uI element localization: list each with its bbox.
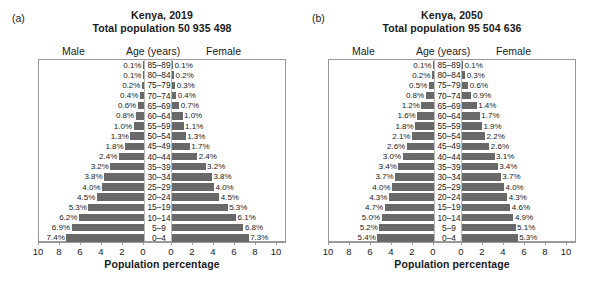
axis-tick bbox=[234, 242, 235, 245]
bar-value-label-female: 2.2% bbox=[487, 132, 505, 141]
bar-value-label-female: 4.9% bbox=[515, 213, 533, 222]
axis-line bbox=[328, 242, 576, 243]
bar-value-label-male: 1.6% bbox=[397, 111, 415, 120]
bar-value-label-female: 3.7% bbox=[502, 172, 520, 181]
age-group-label: 75–79 bbox=[435, 80, 463, 90]
axis-tick-label: 6 bbox=[521, 246, 526, 257]
bar-male bbox=[412, 132, 434, 140]
bar-value-label-female: 6.1% bbox=[238, 213, 256, 222]
axis-tick bbox=[503, 242, 504, 245]
axis-tick bbox=[171, 242, 172, 245]
bar-value-label-female: 1.9% bbox=[483, 122, 501, 131]
bar-male bbox=[72, 224, 144, 232]
male-bars-group: 0.1%0.2%0.5%0.8%1.2%1.6%1.8%2.1%2.6%3.0%… bbox=[329, 60, 434, 241]
bar-value-label-male: 3.0% bbox=[383, 152, 401, 161]
axis-tick bbox=[255, 242, 256, 245]
age-group-label: 10–14 bbox=[435, 213, 463, 223]
bar-value-label-male: 1.2% bbox=[402, 101, 420, 110]
axis-tick-label: 0 bbox=[458, 246, 463, 257]
bar-value-label-male: 6.2% bbox=[59, 213, 77, 222]
axis-tick bbox=[143, 242, 144, 245]
axis-tick-label: 4 bbox=[388, 246, 393, 257]
bar-value-label-female: 6.8% bbox=[245, 223, 263, 232]
axis-tick-label: 6 bbox=[231, 246, 236, 257]
bar-value-label-male: 3.4% bbox=[379, 162, 397, 171]
bar-female bbox=[172, 112, 183, 120]
bar-value-label-female: 0.6% bbox=[470, 81, 488, 90]
axis-tick-label: 0 bbox=[168, 246, 173, 257]
bar-value-label-male: 4.3% bbox=[369, 193, 387, 202]
bar-female bbox=[462, 234, 518, 242]
bar-value-label-male: 5.0% bbox=[362, 213, 380, 222]
axis-tick-label: 6 bbox=[367, 246, 372, 257]
bar-value-label-male: 3.8% bbox=[84, 172, 102, 181]
bar-value-label-female: 5.1% bbox=[517, 223, 535, 232]
bar-female bbox=[462, 132, 485, 140]
bar-value-label-female: 0.1% bbox=[175, 61, 193, 70]
bar-male bbox=[417, 112, 434, 120]
age-group-label: 40–44 bbox=[435, 152, 463, 162]
bar-female bbox=[172, 214, 236, 222]
age-group-label: 25–29 bbox=[145, 182, 173, 192]
age-group-label: 85–89 bbox=[145, 60, 173, 70]
bar-value-label-female: 1.1% bbox=[185, 122, 203, 131]
axis-tick-label: 2 bbox=[479, 246, 484, 257]
panel-a: (a) Kenya, 2019 Total population 50 935 … bbox=[0, 0, 300, 285]
bar-value-label-female: 4.3% bbox=[509, 193, 527, 202]
age-group-label: 80–84 bbox=[435, 70, 463, 80]
bar-value-label-female: 4.0% bbox=[506, 183, 524, 192]
male-bars-group: 0.1%0.1%0.2%0.4%0.6%0.8%1.0%1.3%1.8%2.4%… bbox=[39, 60, 144, 241]
bar-female bbox=[462, 143, 489, 151]
age-group-label: 75–79 bbox=[145, 80, 173, 90]
panel-b-subtitle: Total population 95 504 636 bbox=[328, 22, 576, 35]
bar-value-label-male: 0.4% bbox=[120, 91, 138, 100]
bar-value-label-male: 0.8% bbox=[406, 91, 424, 100]
female-bars-group: 0.1%0.2%0.3%0.4%0.7%1.0%1.1%1.3%1.7%2.4%… bbox=[172, 60, 277, 241]
bar-value-label-male: 1.8% bbox=[105, 142, 123, 151]
bar-value-label-female: 5.3% bbox=[229, 203, 247, 212]
axis-tick-label: 10 bbox=[561, 246, 572, 257]
bar-value-label-female: 0.3% bbox=[467, 71, 485, 80]
bar-male bbox=[79, 214, 144, 222]
bar-male bbox=[66, 234, 144, 242]
age-group-label: 30–34 bbox=[145, 172, 173, 182]
axis-tick-label: 4 bbox=[210, 246, 215, 257]
bar-value-label-male: 0.8% bbox=[116, 111, 134, 120]
bar-value-label-male: 0.6% bbox=[118, 101, 136, 110]
header-female: Female bbox=[496, 45, 531, 57]
axis-tick-label: 8 bbox=[56, 246, 61, 257]
bar-value-label-female: 4.0% bbox=[216, 183, 234, 192]
bar-female bbox=[462, 224, 516, 232]
panel-a-letter: (a) bbox=[12, 12, 25, 24]
bar-female bbox=[462, 102, 477, 110]
header-male: Male bbox=[62, 45, 85, 57]
bar-male bbox=[426, 92, 434, 100]
bar-female bbox=[172, 163, 206, 171]
axis-tick bbox=[192, 242, 193, 245]
bar-value-label-female: 3.8% bbox=[213, 172, 231, 181]
age-group-label: 5–9 bbox=[435, 223, 463, 233]
axis-tick bbox=[433, 242, 434, 245]
age-group-label: 50–54 bbox=[145, 131, 173, 141]
bar-value-label-female: 0.2% bbox=[176, 71, 194, 80]
axis-tick bbox=[370, 242, 371, 245]
axis-tick-label: 4 bbox=[98, 246, 103, 257]
bar-male bbox=[110, 163, 144, 171]
bar-value-label-female: 2.6% bbox=[491, 142, 509, 151]
axis-tick-label: 10 bbox=[33, 246, 44, 257]
female-bars-group: 0.1%0.3%0.6%0.9%1.4%1.7%1.9%2.2%2.6%3.1%… bbox=[462, 60, 567, 241]
bar-value-label-male: 5.2% bbox=[360, 223, 378, 232]
bar-value-label-male: 4.7% bbox=[365, 203, 383, 212]
bar-value-label-male: 2.1% bbox=[392, 132, 410, 141]
bar-value-label-female: 3.2% bbox=[207, 162, 225, 171]
axis-tick bbox=[59, 242, 60, 245]
bar-value-label-male: 4.0% bbox=[372, 183, 390, 192]
bar-male bbox=[136, 112, 144, 120]
bar-value-label-female: 0.3% bbox=[177, 81, 195, 90]
bar-female bbox=[172, 153, 197, 161]
axis-tick-label: 2 bbox=[409, 246, 414, 257]
age-group-label: 55–59 bbox=[435, 121, 463, 131]
age-group-label: 65–69 bbox=[145, 101, 173, 111]
bar-female bbox=[172, 193, 219, 201]
bar-male bbox=[379, 224, 434, 232]
